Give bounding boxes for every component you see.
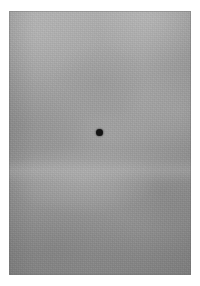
gray-field-panel	[9, 11, 191, 275]
fixation-dot	[96, 129, 103, 136]
image-alt-text: Uniform mottled gray field with a single…	[0, 0, 1, 1]
stimulus-canvas: Uniform mottled gray field with a single…	[0, 0, 200, 286]
panel-border-edge	[9, 11, 191, 275]
